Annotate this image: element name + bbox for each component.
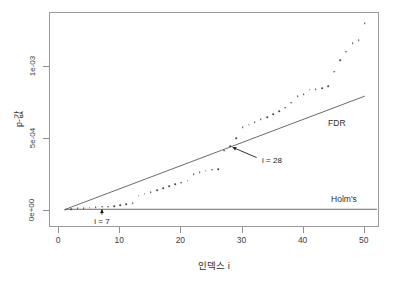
data-layer: FDRHolm's i = 28i = 7	[50, 13, 378, 226]
x-axis-title: 인덱스 i	[198, 258, 230, 272]
x-tick-label: 40	[298, 235, 307, 245]
data-point	[95, 206, 97, 208]
data-point	[291, 102, 293, 104]
data-point	[229, 146, 231, 148]
data-point	[64, 209, 66, 211]
x-tick-mark	[303, 227, 304, 233]
data-point	[364, 22, 366, 24]
data-point	[358, 39, 360, 41]
data-point	[278, 110, 280, 112]
data-point	[346, 51, 348, 53]
data-point	[297, 95, 299, 97]
data-point	[113, 205, 115, 207]
x-tick-label: 20	[176, 235, 185, 245]
data-point	[205, 170, 207, 172]
data-point	[223, 150, 225, 152]
x-tick-mark	[58, 227, 59, 233]
annotation-arrow-head	[233, 147, 237, 150]
threshold-line-fdr	[65, 96, 364, 209]
y-tick-label: 5e-04	[20, 134, 42, 143]
data-point	[83, 207, 85, 209]
data-point	[199, 171, 201, 173]
data-point	[266, 116, 268, 118]
y-tick-label-text: 5e-04	[27, 128, 36, 148]
data-point	[156, 189, 158, 191]
x-tick-mark	[119, 227, 120, 233]
y-tick-label: 0e+00	[20, 205, 42, 214]
i-28-annotation: i = 28	[262, 156, 282, 165]
data-point	[126, 203, 128, 205]
plot-panel: FDRHolm's i = 28i = 7	[49, 12, 379, 227]
data-point	[187, 180, 189, 182]
data-point	[242, 126, 244, 128]
y-tick-label-text: 1e-03	[27, 56, 36, 76]
x-tick-label: 10	[115, 235, 124, 245]
data-point	[254, 121, 256, 123]
data-point	[272, 113, 274, 115]
data-point	[174, 184, 176, 186]
data-point	[101, 206, 103, 208]
data-point	[77, 208, 79, 210]
data-point	[162, 187, 164, 189]
data-point	[181, 182, 183, 184]
data-point	[339, 60, 341, 62]
data-point	[284, 107, 286, 109]
data-point	[327, 85, 329, 87]
i-7-annotation: i = 7	[94, 217, 109, 226]
data-point	[132, 202, 134, 204]
x-tick-mark	[180, 227, 181, 233]
annotation-arrow-head	[100, 209, 104, 213]
x-tick-mark	[242, 227, 243, 233]
data-point	[352, 42, 354, 44]
x-tick-label: 30	[237, 235, 246, 245]
data-point	[236, 138, 238, 140]
data-point	[71, 208, 73, 210]
data-point	[150, 191, 152, 193]
data-point	[309, 89, 311, 91]
data-point	[138, 195, 140, 197]
data-point	[260, 118, 262, 120]
data-point	[315, 88, 317, 90]
y-tick-label: 1e-03	[20, 62, 42, 71]
data-point	[107, 206, 109, 208]
data-point	[217, 168, 219, 170]
data-point	[303, 93, 305, 95]
y-tick-label-text: 0e+00	[27, 199, 36, 221]
chart-screenshot: p-값 인덱스 i 0e+005e-041e-03 01020304050 FD…	[0, 0, 396, 281]
data-point	[211, 169, 213, 171]
x-tick-mark	[364, 227, 365, 233]
data-point	[248, 124, 250, 126]
data-point	[144, 193, 146, 195]
data-point	[333, 71, 335, 73]
x-tick-label: 0	[56, 235, 61, 245]
x-tick-label: 50	[359, 235, 368, 245]
data-point	[168, 186, 170, 188]
y-axis-title: p-값	[12, 111, 25, 127]
data-point	[89, 207, 91, 209]
data-point	[321, 87, 323, 89]
annotation-arrow-shaft	[233, 147, 257, 157]
data-point	[119, 204, 121, 206]
series-label-fdr: FDR	[328, 118, 345, 128]
data-point	[193, 173, 195, 175]
series-label-holms: Holm's	[331, 194, 357, 204]
